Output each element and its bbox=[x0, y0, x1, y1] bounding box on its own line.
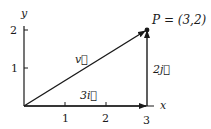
x-tick-label-3: 3 bbox=[143, 114, 150, 127]
point-p bbox=[145, 28, 150, 33]
x-axis-label: x bbox=[160, 99, 167, 112]
y-tick-label-1: 1 bbox=[11, 62, 18, 75]
x-tick-label-1: 1 bbox=[62, 112, 69, 125]
vector-v-label: v⃗ bbox=[75, 53, 88, 66]
vector-2j-label: 2j⃗ bbox=[152, 63, 170, 76]
point-p-label: P = (3,2) bbox=[151, 13, 207, 27]
y-axis-label: y bbox=[20, 7, 28, 20]
y-tick-label-2: 2 bbox=[10, 24, 17, 37]
vector-3i-label: 3i⃗ bbox=[80, 89, 97, 102]
vector-diagram: y x 2 1 1 2 3 v⃗ 3i⃗ 2j⃗ P = (3,2) bbox=[0, 0, 211, 129]
x-tick-label-2: 2 bbox=[102, 112, 109, 125]
